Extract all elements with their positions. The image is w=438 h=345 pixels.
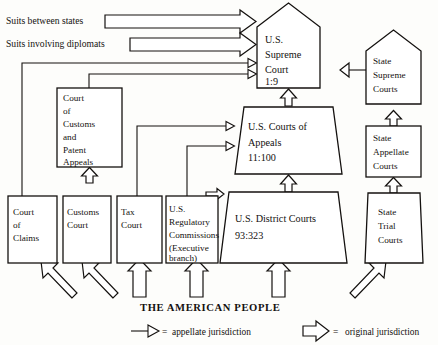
people-arrow-to-state-trial-courts xyxy=(350,261,386,298)
appellate-arrow-state-appellate-to-supreme xyxy=(386,111,402,127)
legend-original-arrow-icon xyxy=(303,321,329,341)
regulatory-commissions-line-4: (Executive xyxy=(169,243,209,253)
diagram-canvas: Suits between states Suits involving dip… xyxy=(0,0,438,345)
legend-original-text: original jurisdiction xyxy=(345,327,420,337)
us-courts-of-appeals-line1: U.S. Courts of xyxy=(248,121,307,132)
tax-court-line-1: Tax xyxy=(121,207,135,217)
ccpa-line-6: Appeals xyxy=(63,157,94,167)
state-appellate-courts-line-3: Courts xyxy=(373,161,398,171)
state-trial-courts-line-3: Courts xyxy=(378,235,403,245)
appellate-arrow-appeals-to-supreme xyxy=(281,89,297,106)
regulatory-commissions-line-3: Commissions xyxy=(169,230,219,240)
ccpa-line-1: Court xyxy=(63,93,84,103)
us-supreme-court-line3: Court xyxy=(265,64,288,75)
appellate-arrow-ccpa-to-supreme xyxy=(89,70,257,89)
state-trial-courts-line-1: State xyxy=(378,207,396,217)
tax-court-line-2: Court xyxy=(121,220,142,230)
us-supreme-court-line2: Supreme xyxy=(265,49,302,60)
people-arrow-to-court-of-claims xyxy=(41,261,77,298)
legend-original-equals: = xyxy=(333,327,338,337)
people-arrow-to-district-courts xyxy=(267,259,290,297)
regulatory-commissions-line-2: Regulatory xyxy=(169,217,210,227)
customs-court-line-1: Customs xyxy=(67,207,100,217)
state-supreme-courts-line-3: Courts xyxy=(373,84,398,94)
legend-appellate-arrow-icon xyxy=(131,325,159,337)
ccpa-line-5: Patent xyxy=(63,145,86,155)
us-district-courts-ratio: 93:323 xyxy=(235,230,263,241)
state-appellate-courts-line-1: State xyxy=(373,133,391,143)
appellate-arrow-tax-court-to-appeals xyxy=(137,122,235,197)
people-arrow-to-tax-court xyxy=(128,259,151,297)
state-supreme-courts-line-1: State xyxy=(373,56,391,66)
state-trial-courts-line-2: Trial xyxy=(378,221,396,231)
the-american-people-label: THE AMERICAN PEOPLE xyxy=(140,302,280,313)
state-appellate-courts-line-2: Appellate xyxy=(373,147,409,157)
label-suits-between-states: Suits between states xyxy=(6,15,84,26)
appellate-arrow-state-supreme-to-us-supreme xyxy=(340,63,366,77)
ccpa-line-2: of xyxy=(63,106,72,116)
customs-court-line-2: Court xyxy=(67,220,88,230)
court-of-claims-line-2: of xyxy=(13,220,22,230)
court-of-claims-line-3: Claims xyxy=(13,233,39,243)
regulatory-commissions-line-5: branch) xyxy=(169,253,197,263)
people-arrow-to-regulatory-commissions xyxy=(185,259,208,297)
us-courts-of-appeals-ratio: 11:100 xyxy=(248,152,276,163)
ccpa-line-4: and xyxy=(63,132,77,142)
original-jurisdiction-arrow-states xyxy=(105,10,256,33)
us-district-courts-line1: U.S. District Courts xyxy=(235,213,316,224)
label-suits-involving-diplomats: Suits involving diplomats xyxy=(6,38,105,49)
regulatory-commissions-line-1: U.S. xyxy=(169,204,185,214)
court-of-claims-line-1: Court xyxy=(13,207,34,217)
legend-appellate-text: appellate jurisdiction xyxy=(172,327,251,337)
us-courts-of-appeals-line2: Appeals xyxy=(248,137,281,148)
us-supreme-court-line1: U.S. xyxy=(265,34,283,45)
us-district-courts-node xyxy=(220,192,347,263)
state-supreme-courts-line-2: Supreme xyxy=(373,70,406,80)
legend-appellate-equals: = xyxy=(162,327,167,337)
ccpa-line-3: Customs xyxy=(63,119,96,129)
original-jurisdiction-arrow-diplomats xyxy=(130,33,256,56)
appellate-arrow-district-to-appeals xyxy=(281,175,297,192)
appellate-arrow-state-trial-to-appellate xyxy=(386,178,402,194)
court-system-diagram: Suits between states Suits involving dip… xyxy=(0,0,438,345)
appellate-arrow-regulatory-to-appeals xyxy=(187,142,235,197)
us-supreme-court-ratio: 1:9 xyxy=(265,76,278,87)
people-arrow-to-customs-court xyxy=(82,261,118,298)
appellate-arrow-ccpa-to-supreme-hollow xyxy=(82,168,98,184)
